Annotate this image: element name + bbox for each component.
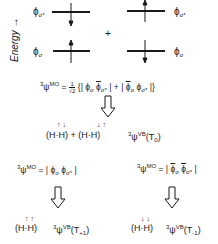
- open-bracket: {|: [78, 82, 83, 92]
- equation-tp1-mo: 3ψMO = | ϕσ ϕσ* |: [17, 162, 77, 178]
- psi-superscript: VB: [63, 224, 71, 230]
- psi-superscript: VB: [138, 131, 146, 137]
- phi-subscript: σ: [180, 52, 184, 58]
- orbital-label-upper-right: ϕσ*: [174, 7, 186, 20]
- close-bracket: |}: [150, 82, 155, 92]
- plus-separator: | + |: [109, 82, 123, 92]
- spin-down-arrow-icon: [143, 58, 147, 63]
- phi-subscript: σ: [90, 87, 94, 93]
- equals-sign: = |: [38, 165, 48, 175]
- vb-tp1-label: 3ψVB(T+1): [53, 222, 89, 238]
- plus-sign: +: [105, 29, 111, 39]
- psi-superscript: MO: [49, 81, 59, 87]
- hollow-down-arrow-icon: [100, 95, 116, 119]
- phi-subscript: σ: [55, 170, 59, 176]
- spins-tp1: ↑ ↑: [25, 215, 34, 222]
- equation-tm1-mo: 3ψMO = | ϕσ ϕσ* |: [137, 161, 197, 177]
- phi-subscript: σ*: [66, 170, 72, 176]
- psi-superscript: MO: [146, 163, 156, 169]
- state-close: ): [86, 225, 89, 235]
- hollow-down-arrow-icon: [50, 186, 66, 210]
- h-atom-left: (H: [78, 130, 88, 140]
- h-atom-right: ·H): [141, 223, 154, 233]
- fraction: 1√2: [69, 81, 76, 94]
- phi-subscript: σ*: [180, 12, 186, 18]
- state-label: (T: [146, 132, 155, 142]
- phi-subscript: σ: [39, 52, 43, 58]
- psi-superscript: VB: [176, 224, 184, 230]
- h-atom-right: ·H): [88, 130, 101, 140]
- hollow-down-arrow-icon: [164, 186, 180, 210]
- spins-t0-term1: ↑ ↓: [57, 121, 66, 128]
- spin-up-arrow-icon: [69, 40, 73, 45]
- psi-superscript: MO: [26, 164, 36, 170]
- orbital-label-lower-right: ϕσ: [174, 47, 183, 60]
- phi-subscript: σ: [175, 169, 179, 175]
- h-atom-left: (H: [131, 223, 141, 233]
- h-atom-left: (H: [15, 223, 25, 233]
- orbital-label-upper-left: ϕσ*: [33, 7, 45, 20]
- plus-sign: +: [71, 130, 76, 140]
- spins-t0-term2: ↓ ↑: [97, 121, 106, 128]
- spin-up-arrow-icon: [143, 0, 147, 5]
- vb-tm1-expression: (H·H): [131, 223, 153, 233]
- close-bar: |: [74, 165, 76, 175]
- h-atom-left: (H: [46, 130, 56, 140]
- phi-subscript: σ*: [101, 87, 107, 93]
- orbital-label-lower-left: ϕσ: [33, 47, 42, 60]
- phi-subscript: σ*: [186, 169, 192, 175]
- spins-tm1: ↓ ↓: [141, 215, 150, 222]
- h-atom-right: ·H): [25, 223, 38, 233]
- state-label: (T: [184, 225, 193, 235]
- phi-subscript: σ: [131, 87, 135, 93]
- equation-t0-mo: 3ψMO = 1√2 {| ϕσ ϕσ* | + | ϕσ ϕσ* |}: [40, 79, 155, 95]
- equals-sign: = |: [158, 164, 168, 174]
- fraction-denominator: √2: [69, 88, 76, 94]
- vb-tm1-label: 3ψVB(T-1): [166, 222, 201, 238]
- vb-t0-expression: (H·H) + (H·H): [46, 130, 100, 140]
- fraction-numerator: 1: [69, 81, 76, 88]
- vb-t0-label: 3ψVB(T0): [128, 129, 161, 145]
- state-close: ): [198, 225, 201, 235]
- phi-subscript: σ*: [39, 12, 45, 18]
- spin-down-arrow-icon: [69, 21, 73, 26]
- equals-sign: =: [61, 82, 66, 92]
- close-bar: |: [194, 164, 196, 174]
- h-atom-right: ·H): [56, 130, 69, 140]
- state-label: (T: [71, 225, 80, 235]
- vb-tp1-expression: (H·H): [15, 223, 37, 233]
- state-close: ): [158, 132, 161, 142]
- phi-subscript: σ*: [141, 87, 147, 93]
